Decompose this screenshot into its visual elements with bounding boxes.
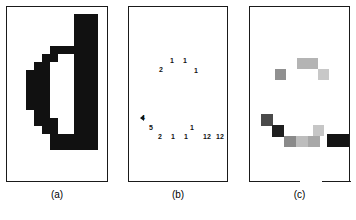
shape-block <box>74 70 98 78</box>
chain-code-label: 12 <box>203 133 211 140</box>
shape-block <box>34 110 50 118</box>
gray-cell <box>327 134 349 147</box>
shape-block <box>42 54 58 62</box>
shape-block <box>74 94 98 102</box>
shape-block <box>26 70 50 78</box>
gray-cell <box>286 69 297 80</box>
shape-block <box>50 142 98 150</box>
shape-block <box>26 78 50 86</box>
shape-block <box>26 94 50 102</box>
shape-block <box>74 54 98 62</box>
panel-b: 11214512111212 <box>128 6 228 182</box>
shape-block <box>74 14 98 30</box>
chain-code-label: 12 <box>216 133 224 140</box>
chain-code-label: 1 <box>171 133 175 140</box>
shape-block <box>26 102 50 110</box>
shape-block <box>42 126 58 134</box>
chain-code-label: 1 <box>183 57 187 64</box>
gray-cell <box>272 125 284 137</box>
shape-block <box>74 102 98 110</box>
chain-code-label: 1 <box>184 133 188 140</box>
gray-cell <box>297 58 318 69</box>
panel-a <box>6 6 108 182</box>
gray-cell <box>308 136 320 147</box>
panel-bottom-rule-right <box>322 181 351 182</box>
gray-cell <box>318 69 329 80</box>
gray-cell <box>313 125 324 136</box>
shape-block <box>74 126 98 134</box>
panel-c <box>249 6 350 182</box>
figure-container: (a) 11214512111212 (b) (c) <box>0 0 356 220</box>
shape-block <box>34 118 58 126</box>
shape-block <box>74 118 98 126</box>
chain-code-label: 1 <box>194 67 198 74</box>
gray-cell <box>296 136 308 147</box>
panel-b-border <box>128 6 228 182</box>
shape-block <box>74 78 98 86</box>
shape-block <box>74 86 98 94</box>
shape-block <box>74 110 98 118</box>
panel-c-caption: (c) <box>249 189 350 201</box>
gray-cell <box>284 136 296 147</box>
shape-block <box>74 30 98 46</box>
panel-b-caption: (b) <box>128 189 228 201</box>
shape-block <box>50 134 98 142</box>
chain-code-label: 2 <box>158 133 162 140</box>
panel-c-border <box>249 6 350 182</box>
chain-code-label: 1 <box>170 57 174 64</box>
gray-cell <box>275 69 286 80</box>
shape-block <box>50 46 98 54</box>
shape-block <box>26 86 50 94</box>
chain-code-label: 5 <box>149 124 153 131</box>
shape-block <box>74 62 98 70</box>
shape-block <box>34 62 50 70</box>
panel-bottom-rule-left <box>250 181 300 182</box>
panel-a-caption: (a) <box>6 189 108 201</box>
chain-code-label: 1 <box>190 124 194 131</box>
chain-code-label: 2 <box>159 66 163 73</box>
triangle-marker-icon <box>140 115 144 121</box>
